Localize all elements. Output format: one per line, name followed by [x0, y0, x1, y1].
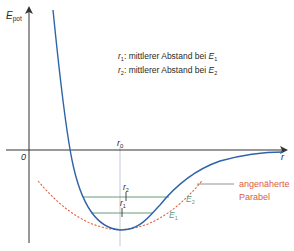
- legend-r2: r2: mittlerer Abstand bei E2: [118, 65, 217, 76]
- r2-label: r2: [123, 182, 129, 193]
- r0-label: r0: [117, 138, 124, 149]
- x-axis-label: r: [281, 152, 285, 162]
- y-axis-label: Epot: [6, 10, 22, 23]
- e2-label: E2: [186, 194, 195, 205]
- parabola-label-line1: angenäherte: [239, 179, 290, 189]
- potential-energy-diagram: Epot 0 r r0 r1: mittlerer Abstand bei E1…: [0, 0, 294, 251]
- e1-label: E1: [169, 210, 178, 221]
- parabola-label-line2: Parabel: [239, 192, 270, 202]
- origin-label: 0: [21, 152, 26, 162]
- legend-r1: r1: mittlerer Abstand bei E1: [118, 51, 217, 62]
- r1-label: r1: [120, 198, 126, 209]
